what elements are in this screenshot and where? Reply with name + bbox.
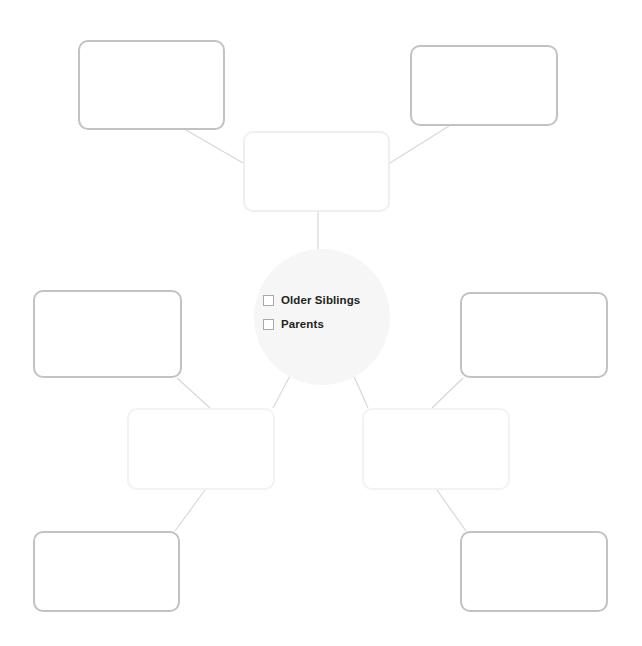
connector-mid-left-to-lower-left-inner xyxy=(177,378,210,408)
hub-option-row[interactable]: Parents xyxy=(263,312,360,336)
node-box-lower-left-inner[interactable] xyxy=(127,408,275,490)
connector-lower-left-inner-to-bottom-left xyxy=(175,490,205,531)
connector-mid-right-to-lower-right-inner xyxy=(432,378,463,408)
node-box-top-right[interactable] xyxy=(410,45,558,126)
connector-top-right-to-top-center xyxy=(390,126,449,163)
node-box-lower-right-inner[interactable] xyxy=(362,408,510,490)
connector-center-hub-to-lower-right-inner xyxy=(352,372,368,408)
node-box-top-left[interactable] xyxy=(78,40,225,130)
checkbox-icon[interactable] xyxy=(263,295,274,306)
node-box-bottom-right[interactable] xyxy=(460,531,608,612)
hub-option-label: Parents xyxy=(281,318,324,330)
node-box-mid-left[interactable] xyxy=(33,290,182,378)
node-box-mid-right[interactable] xyxy=(460,292,608,378)
hub-option-label: Older Siblings xyxy=(281,294,360,306)
mind-map-canvas: Older SiblingsParents xyxy=(0,0,642,646)
node-box-top-center[interactable] xyxy=(243,131,390,212)
checkbox-icon[interactable] xyxy=(263,319,274,330)
connector-top-left-to-top-center xyxy=(186,130,243,163)
node-box-bottom-left[interactable] xyxy=(33,531,180,612)
hub-option-row[interactable]: Older Siblings xyxy=(263,288,360,312)
connector-center-hub-to-lower-left-inner xyxy=(273,372,292,408)
center-hub-options: Older SiblingsParents xyxy=(263,288,360,336)
connector-lower-right-inner-to-bottom-right xyxy=(437,490,466,531)
